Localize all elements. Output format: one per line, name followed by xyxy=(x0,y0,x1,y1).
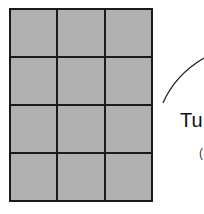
turn-label: Tu xyxy=(180,109,203,132)
turn-arc-icon xyxy=(0,0,204,214)
turn-sub-label: ( xyxy=(199,146,203,160)
